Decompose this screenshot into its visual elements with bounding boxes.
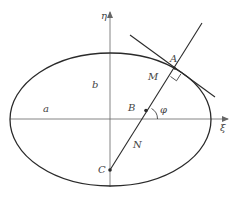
label-M: M (148, 72, 158, 82)
phi-angle-arc (152, 109, 158, 120)
right-angle-marker (171, 74, 181, 81)
point-B (144, 109, 148, 113)
diagram-graphics (0, 0, 237, 200)
tangent-line (130, 35, 215, 97)
eta-axis-label: η (101, 11, 107, 21)
label-a: a (43, 104, 49, 114)
label-phi: φ (160, 105, 167, 115)
label-A: A (170, 54, 177, 64)
xi-axis-label: ξ (220, 123, 226, 133)
label-b: b (92, 80, 98, 90)
point-A (174, 67, 176, 69)
label-N: N (133, 140, 142, 150)
ellipse (10, 53, 211, 186)
label-C: C (98, 165, 106, 175)
normal-line (110, 23, 202, 170)
label-B: B (128, 103, 135, 113)
point-C (108, 168, 112, 172)
ellipse-diagram: η ξ A M b a B φ N C (0, 0, 237, 200)
